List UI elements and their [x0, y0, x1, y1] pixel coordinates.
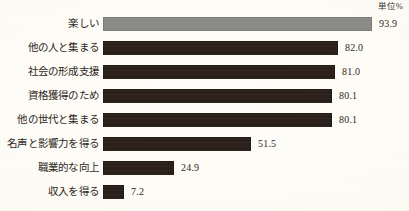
- bar-track: 24.9: [103, 161, 174, 175]
- bar: [103, 41, 338, 55]
- bar: [103, 161, 174, 175]
- bar-category-label: 他の世代と集まる: [17, 112, 99, 128]
- bar-chart: 単位% 楽しい93.9他の人と集まる82.0社会の形成支援81.0資格獲得のため…: [0, 0, 409, 211]
- bar-category-label: 他の人と集まる: [28, 40, 99, 56]
- bar-row: 収入を得る7.2: [0, 184, 409, 208]
- bar: [103, 113, 332, 127]
- bar-row: 楽しい93.9: [0, 16, 409, 40]
- bar-track: 81.0: [103, 65, 335, 79]
- bar: [103, 17, 372, 31]
- bar: [103, 89, 332, 103]
- bar: [103, 185, 124, 199]
- bar-track: 93.9: [103, 17, 372, 31]
- bar-track: 82.0: [103, 41, 338, 55]
- bar-row: 資格獲得のため80.1: [0, 88, 409, 112]
- bar-track: 80.1: [103, 113, 332, 127]
- unit-caption: 単位%: [378, 1, 403, 12]
- bar-category-label: 収入を得る: [48, 184, 99, 200]
- bar-value-label: 93.9: [379, 17, 397, 31]
- bar-category-label: 名声と影響力を得る: [7, 136, 99, 152]
- bar-row: 社会の形成支援81.0: [0, 64, 409, 88]
- bar-track: 7.2: [103, 185, 124, 199]
- bar: [103, 65, 335, 79]
- bar-row: 名声と影響力を得る51.5: [0, 136, 409, 160]
- bar: [103, 137, 251, 151]
- bar-value-label: 82.0: [345, 41, 363, 55]
- bar-value-label: 80.1: [339, 89, 357, 103]
- bar-category-label: 職業的な向上: [38, 160, 99, 176]
- bar-category-label: 社会の形成支援: [28, 64, 99, 80]
- bar-category-label: 資格獲得のため: [28, 88, 99, 104]
- bar-value-label: 80.1: [339, 113, 357, 127]
- bar-track: 51.5: [103, 137, 251, 151]
- bar-value-label: 7.2: [131, 185, 144, 199]
- bar-row: 他の人と集まる82.0: [0, 40, 409, 64]
- bar-value-label: 51.5: [258, 137, 276, 151]
- bar-track: 80.1: [103, 89, 332, 103]
- bar-row: 職業的な向上24.9: [0, 160, 409, 184]
- bar-value-label: 81.0: [342, 65, 360, 79]
- bar-value-label: 24.9: [181, 161, 199, 175]
- bar-rows: 楽しい93.9他の人と集まる82.0社会の形成支援81.0資格獲得のため80.1…: [0, 16, 409, 208]
- bar-row: 他の世代と集まる80.1: [0, 112, 409, 136]
- bar-category-label: 楽しい: [68, 16, 99, 32]
